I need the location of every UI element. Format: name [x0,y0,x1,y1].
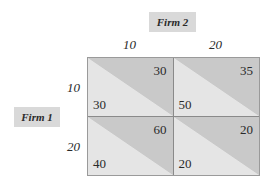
firm1-payoff: 20 [179,157,192,170]
firm2-payoff: 60 [154,123,167,136]
firm1-payoff: 40 [93,157,106,170]
column-strategy-1: 10 [123,38,136,51]
firm2-payoff: 35 [240,64,253,77]
firm2-payoff: 30 [154,64,167,77]
column-player-name: Firm 2 [157,16,188,28]
firm2-payoff: 20 [240,123,253,136]
column-player-label: Firm 2 [149,12,196,32]
payoff-cell-r1-c1: 30 30 [88,58,174,117]
firm1-payoff: 50 [179,98,192,111]
payoff-matrix: 30 30 35 50 60 40 20 20 [87,57,260,176]
row-player-label: Firm 1 [14,107,60,127]
firm1-payoff: 30 [93,98,106,111]
payoff-cell-r2-c1: 60 40 [88,117,174,176]
payoff-cell-r1-c2: 35 50 [174,58,260,117]
payoff-cell-r2-c2: 20 20 [174,117,260,176]
column-strategy-2: 20 [209,38,222,51]
row-strategy-2: 20 [67,140,80,153]
row-strategy-1: 10 [67,81,80,94]
row-player-name: Firm 1 [21,111,52,123]
